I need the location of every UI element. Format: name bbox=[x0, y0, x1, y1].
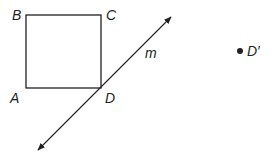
square-abcd bbox=[26, 15, 101, 88]
line-m bbox=[38, 17, 171, 150]
label-d-prime: D′ bbox=[247, 43, 261, 59]
label-m: m bbox=[145, 45, 157, 61]
label-b: B bbox=[12, 7, 21, 23]
label-a: A bbox=[9, 90, 19, 106]
point-d-prime-dot bbox=[237, 48, 243, 54]
geometry-diagram: B C A D m D′ bbox=[0, 0, 272, 155]
label-d: D bbox=[105, 90, 115, 106]
label-c: C bbox=[106, 7, 117, 23]
